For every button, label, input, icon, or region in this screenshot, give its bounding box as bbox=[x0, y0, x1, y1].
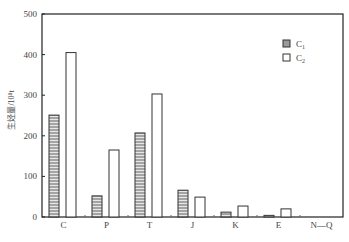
bar-c2-p bbox=[109, 150, 119, 217]
bar-c2-e bbox=[281, 209, 291, 217]
x-tick-label: C bbox=[60, 220, 66, 230]
y-tick-label: 500 bbox=[24, 9, 38, 19]
bars bbox=[49, 53, 291, 217]
x-tick-label: N—Q bbox=[311, 220, 333, 230]
x-tick-label: T bbox=[147, 220, 153, 230]
y-tick-label: 0 bbox=[33, 212, 38, 222]
legend-swatch-1 bbox=[283, 40, 290, 47]
bar-chart: 0100200300400500 CPTJKEN—Q 生烃量/10⁸t C1C2 bbox=[0, 0, 349, 242]
bar-c2-k bbox=[238, 206, 248, 217]
bar-c1-c bbox=[49, 115, 59, 217]
legend-label-2: C2 bbox=[296, 53, 305, 64]
legend-label-1: C1 bbox=[296, 39, 305, 50]
bar-c1-e bbox=[264, 215, 274, 217]
x-tick-label: J bbox=[191, 220, 195, 230]
x-tick-label: E bbox=[276, 220, 282, 230]
bar-c2-j bbox=[195, 197, 205, 217]
bar-c1-t bbox=[135, 133, 145, 217]
bar-c1-k bbox=[221, 212, 231, 217]
bar-c1-j bbox=[178, 190, 188, 217]
y-tick-label: 100 bbox=[24, 171, 38, 181]
legend: C1C2 bbox=[283, 39, 305, 64]
bar-c2-c bbox=[66, 53, 76, 217]
bar-c2-t bbox=[152, 94, 162, 217]
y-tick-label: 300 bbox=[24, 90, 38, 100]
y-axis-label: 生烃量/10⁸t bbox=[6, 90, 16, 130]
legend-swatch-2 bbox=[283, 54, 290, 61]
y-tick-label: 200 bbox=[24, 131, 38, 141]
x-tick-label: P bbox=[104, 220, 109, 230]
x-tick-label: K bbox=[232, 220, 239, 230]
bar-c1-p bbox=[92, 196, 102, 217]
y-tick-label: 400 bbox=[24, 50, 38, 60]
